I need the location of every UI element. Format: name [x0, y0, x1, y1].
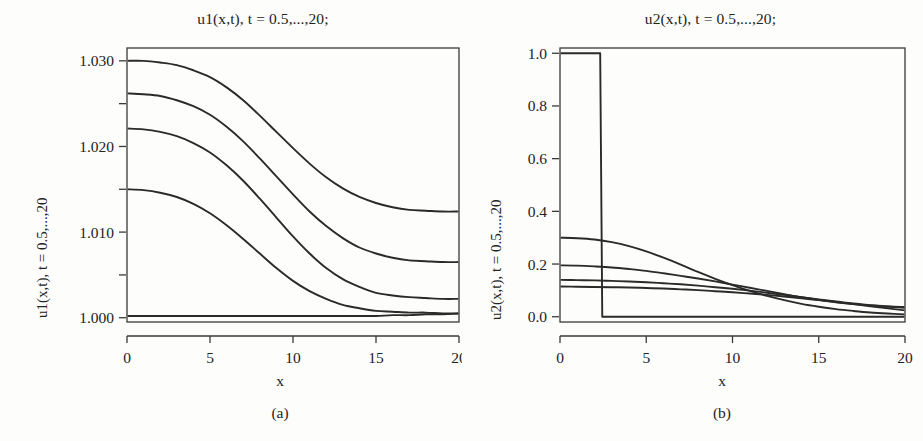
y-tick-label: 1.020	[79, 138, 114, 155]
x-tick-label: 5	[642, 349, 650, 366]
data-curve	[127, 313, 459, 316]
x-tick-label: 10	[285, 349, 301, 366]
panel-b-x-axis-label: x	[602, 372, 842, 390]
chart-panel-b: u2(x,t), t = 0.5,...,20; u2(x,t), t = 0.…	[462, 0, 923, 441]
x-tick-label: 20	[897, 349, 913, 366]
x-tick-label: 15	[811, 349, 827, 366]
y-tick-label: 1.0	[528, 45, 548, 62]
y-tick-label: 1.030	[79, 52, 114, 69]
x-tick-label: 20	[451, 349, 462, 366]
x-tick-label: 0	[123, 349, 131, 366]
y-tick-label: 0.4	[528, 203, 548, 220]
x-tick-label: 15	[368, 349, 384, 366]
y-tick-label: 0.2	[528, 256, 547, 273]
y-tick-label: 1.000	[79, 309, 114, 326]
y-tick-label: 0.8	[528, 97, 548, 114]
y-tick-label: 1.010	[79, 224, 114, 241]
data-curve	[127, 189, 459, 313]
x-tick-label: 5	[206, 349, 214, 366]
figure-container: u1(x,t), t = 0.5,...,20; u1(x,t), t = 0.…	[0, 0, 923, 441]
data-curve	[127, 128, 459, 298]
panel-b-caption: (b)	[602, 404, 842, 422]
y-tick-label: 0.0	[528, 308, 548, 325]
y-tick-label: 0.6	[528, 150, 548, 167]
x-tick-label: 10	[725, 349, 741, 366]
data-curve	[560, 265, 905, 307]
chart-panel-a: u1(x,t), t = 0.5,...,20; u1(x,t), t = 0.…	[0, 0, 462, 441]
panel-a-x-axis-label: x	[160, 372, 400, 390]
data-curve	[560, 286, 905, 310]
x-tick-label: 0	[556, 349, 564, 366]
panel-a-caption: (a)	[160, 404, 400, 422]
data-curve	[560, 53, 905, 316]
